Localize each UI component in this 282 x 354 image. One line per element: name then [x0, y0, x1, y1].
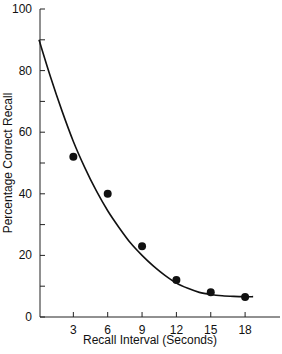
data-point	[241, 293, 249, 301]
x-tick-label: 18	[238, 323, 252, 337]
fit-curve	[39, 40, 253, 297]
y-tick-label: 80	[19, 64, 33, 78]
y-tick-label: 20	[19, 248, 33, 262]
data-points	[69, 153, 249, 301]
chart: 020406080100369121518 Recall Interval (S…	[0, 0, 282, 354]
tick-labels: 020406080100369121518	[12, 2, 252, 337]
y-axis-title: Percentage Correct Recall	[1, 93, 15, 234]
y-tick-label: 100	[12, 2, 32, 16]
x-axis	[40, 312, 280, 317]
fit-curve-path	[39, 40, 253, 297]
data-point	[172, 276, 180, 284]
y-tick-label: 60	[19, 125, 33, 139]
x-axis-title: Recall Interval (Seconds)	[83, 333, 217, 347]
data-point	[207, 288, 215, 296]
data-point	[69, 153, 77, 161]
data-point	[104, 190, 112, 198]
x-tick-label: 3	[70, 323, 77, 337]
y-tick-label: 0	[25, 310, 32, 324]
y-tick-label: 40	[19, 187, 33, 201]
data-point	[138, 242, 146, 250]
